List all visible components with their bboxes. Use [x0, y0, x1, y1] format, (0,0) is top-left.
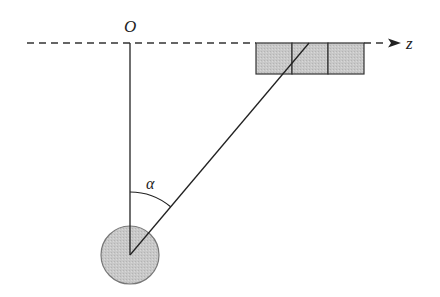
- axis-label: z: [405, 34, 413, 53]
- angle-label: α: [146, 175, 155, 192]
- origin-label: O: [124, 17, 136, 36]
- angle-arc: [130, 192, 171, 207]
- box-group: [256, 43, 364, 74]
- diagonal-line: [130, 43, 309, 255]
- box-2: [292, 43, 328, 74]
- axis-arrow-icon: [388, 39, 401, 48]
- diagram-canvas: O z α: [0, 0, 440, 297]
- box-3: [328, 43, 364, 74]
